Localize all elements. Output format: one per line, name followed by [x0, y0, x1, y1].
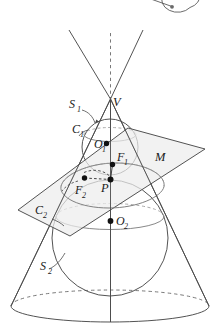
label-center-lower-O2: O 2 — [116, 214, 128, 231]
cone-base-back-arc — [11, 290, 209, 306]
cone-base-front-arc — [11, 306, 209, 322]
upper-nappe-left-ray — [69, 30, 111, 99]
point-O2 — [108, 218, 114, 224]
upper-nappe-right-ray — [111, 30, 144, 99]
svg-text:S: S — [69, 97, 75, 111]
svg-text:1: 1 — [124, 158, 128, 167]
svg-text:1: 1 — [102, 145, 106, 154]
svg-text:2: 2 — [48, 267, 52, 276]
cone-right-generator-overlay — [111, 99, 210, 306]
label-sphere-upper-S1: S 1 — [69, 97, 81, 114]
label-plane-M: M — [154, 150, 166, 164]
svg-text:2: 2 — [82, 191, 86, 200]
dandelin-spheres-diagram: V S 1 C 1 O 1 F 1 P F 2 M C 2 O 2 — [0, 0, 220, 332]
svg-text:1: 1 — [77, 105, 81, 114]
label-circle-upper-C1: C 1 — [72, 122, 84, 139]
fragment-point — [170, 5, 174, 9]
top-fragment — [148, 0, 200, 12]
label-point-P: P — [100, 181, 109, 195]
point-F2 — [82, 175, 87, 180]
label-sphere-lower-S2: S 2 — [40, 259, 52, 276]
leader-S1 — [82, 110, 95, 123]
label-vertex-V: V — [113, 95, 122, 109]
svg-text:2: 2 — [124, 222, 128, 231]
svg-text:2: 2 — [43, 211, 47, 220]
point-F1 — [110, 162, 115, 167]
svg-text:1: 1 — [80, 130, 84, 139]
svg-text:S: S — [40, 259, 46, 273]
